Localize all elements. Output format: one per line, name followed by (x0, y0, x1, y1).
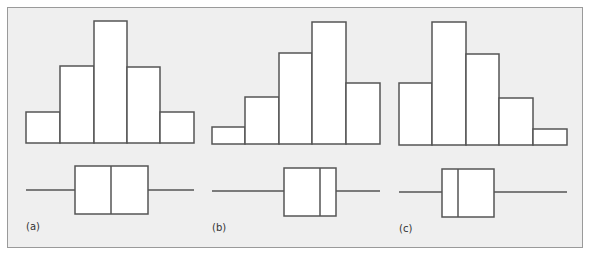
bar-a-5 (160, 112, 194, 143)
boxplot-a (26, 166, 194, 214)
bar-c-4 (499, 98, 533, 145)
bar-b-4 (312, 22, 346, 144)
bar-a-3 (94, 21, 127, 143)
bar-b-5 (346, 83, 380, 144)
bar-c-1 (399, 83, 432, 145)
bar-b-3 (279, 53, 312, 144)
bar-c-3 (466, 54, 499, 145)
panel-label-a: (a) (26, 221, 40, 232)
bar-b-2 (245, 97, 279, 144)
bar-b-1 (212, 127, 245, 144)
boxplot-b (212, 168, 380, 216)
bar-c-5 (533, 129, 567, 145)
histogram-boxplot-figure (0, 0, 592, 256)
boxplot-c (399, 169, 567, 217)
bar-a-4 (127, 67, 160, 143)
histogram-c (399, 22, 567, 145)
bar-a-1 (26, 112, 60, 143)
box-c (442, 169, 494, 217)
bar-c-2 (432, 22, 466, 145)
panel-label-b: (b) (212, 222, 226, 233)
bar-a-2 (60, 66, 94, 143)
box-b (284, 168, 336, 216)
histogram-b (212, 22, 380, 144)
histogram-a (26, 21, 194, 143)
panel-label-c: (c) (399, 223, 412, 234)
